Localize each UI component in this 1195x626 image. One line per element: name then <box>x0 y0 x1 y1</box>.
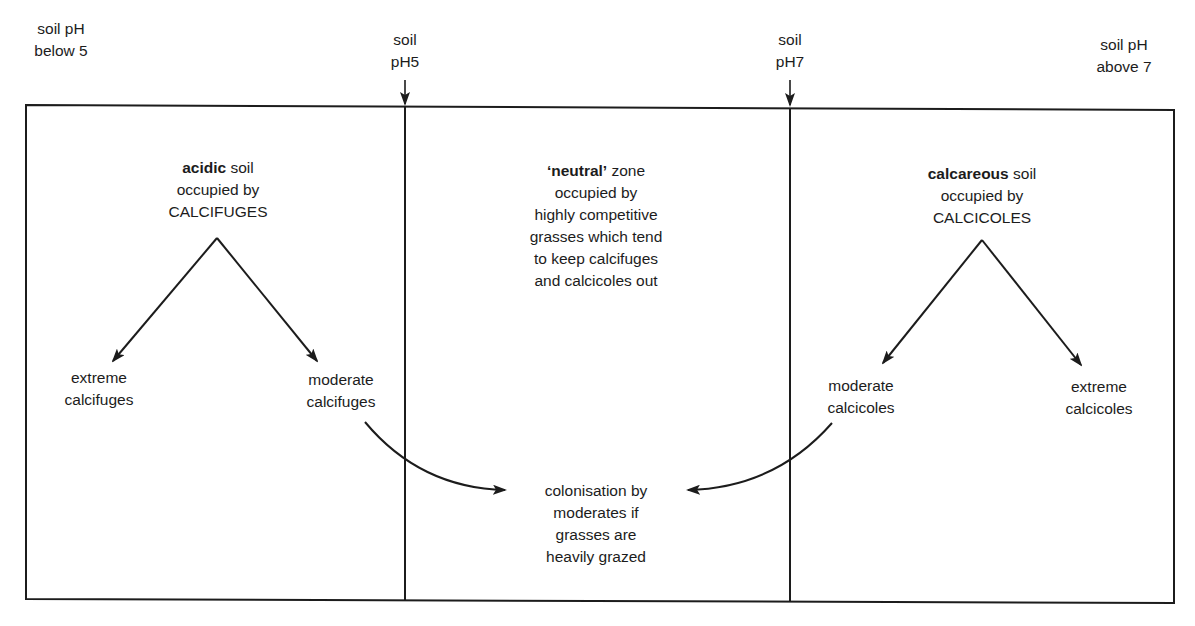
acidic-zone-heading: acidic soil occupied by CALCIFUGES <box>168 157 267 223</box>
label-ph-below-5: soil pH below 5 <box>34 18 87 62</box>
moderate-calcicoles-label: moderate calcicoles <box>827 375 894 419</box>
acidic-to-extreme-arrow-icon <box>113 238 217 361</box>
moderate-calcifuges-label: moderate calcifuges <box>307 369 376 413</box>
label-ph7: soil pH7 <box>776 29 804 73</box>
extreme-calcifuges-label: extreme calcifuges <box>65 367 134 411</box>
acidic-to-moderate-arrow-icon <box>217 238 317 361</box>
label-ph-above-7: soil pH above 7 <box>1096 34 1151 78</box>
calcareous-to-moderate-arrow-icon <box>883 240 982 363</box>
calcicole-colonisation-arrow-icon <box>688 423 832 490</box>
colonisation-note: colonisation by moderates if grasses are… <box>545 480 648 568</box>
calcifuge-colonisation-arrow-icon <box>365 422 505 490</box>
calcareous-zone-heading: calcareous soil occupied by CALCICOLES <box>928 163 1037 229</box>
neutral-zone-description: ‘neutral’ zone occupied by highly compet… <box>530 160 663 292</box>
extreme-calcicoles-label: extreme calcicoles <box>1065 376 1132 420</box>
calcareous-to-extreme-arrow-icon <box>982 240 1081 365</box>
label-ph5: soil pH5 <box>391 29 419 73</box>
